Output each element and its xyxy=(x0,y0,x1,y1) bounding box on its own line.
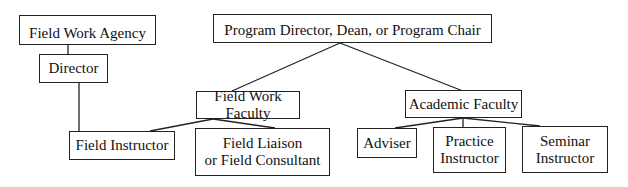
org-chart: Field Work Agency Director Program Direc… xyxy=(0,0,628,187)
node-field-instructor: Field Instructor xyxy=(69,131,175,160)
node-academic-faculty: Academic Faculty xyxy=(405,90,522,118)
node-field-work-agency: Field Work Agency xyxy=(19,15,156,45)
node-director: Director xyxy=(39,54,108,83)
node-field-liaison: Field Liaison or Field Consultant xyxy=(195,128,330,176)
node-adviser: Adviser xyxy=(357,128,417,158)
node-program-director: Program Director, Dean, or Program Chair xyxy=(213,14,492,43)
node-seminar-instructor: Seminar Instructor xyxy=(522,126,608,173)
node-field-work-faculty: Field Work Faculty xyxy=(196,91,300,119)
node-practice-instructor: Practice Instructor xyxy=(433,127,506,173)
